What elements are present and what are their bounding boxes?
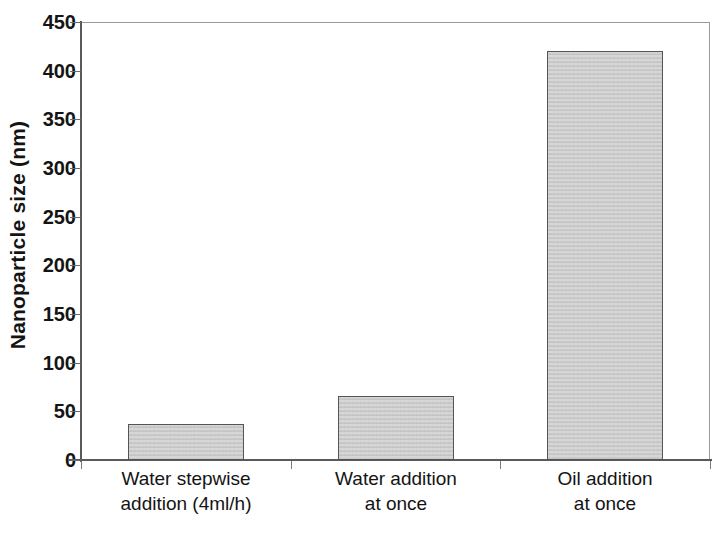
x-category-label: Water stepwiseaddition (4ml/h) (81, 466, 291, 516)
bar-chart: Nanoparticle size (nm) 05010015020025030… (0, 0, 725, 536)
x-category-label-line2: at once (500, 491, 710, 516)
x-category-label-line1: Oil addition (500, 466, 710, 491)
x-category-label-line2: addition (4ml/h) (81, 491, 291, 516)
bar-1 (128, 424, 244, 460)
bar-3 (547, 51, 663, 460)
bar-2 (338, 396, 454, 460)
x-category-label-line1: Water stepwise (81, 466, 291, 491)
x-category-label-line1: Water addition (291, 466, 501, 491)
bars-group (0, 0, 725, 536)
x-category-label: Water additionat once (291, 466, 501, 516)
x-category-label: Oil additionat once (500, 466, 710, 516)
x-category-label-line2: at once (291, 491, 501, 516)
x-axis-tick-labels: Water stepwiseaddition (4ml/h)Water addi… (81, 466, 710, 528)
